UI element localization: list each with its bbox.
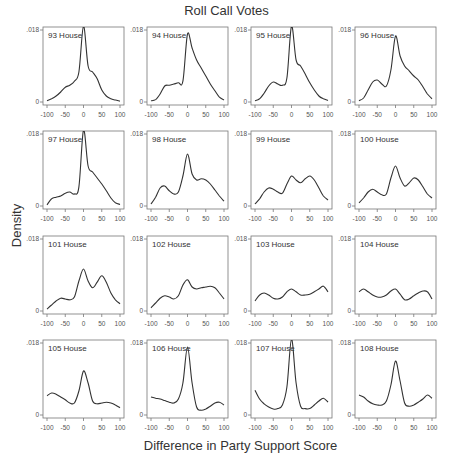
x-tick-label: 100 <box>427 111 438 118</box>
density-curve <box>255 176 328 204</box>
y-tick-label: 0 <box>347 202 351 209</box>
density-panel: 99 House0.018-100-50050100 <box>234 130 333 222</box>
x-tick-label: 100 <box>427 215 438 222</box>
y-tick-label: 0 <box>35 307 39 314</box>
x-tick-label: -50 <box>61 320 71 327</box>
x-tick-label: 50 <box>306 320 314 327</box>
x-tick-label: 0 <box>290 111 294 118</box>
x-tick-label: 50 <box>306 215 314 222</box>
density-panel: 108 House0.018-100-50050100 <box>338 339 437 431</box>
x-tick-label: -50 <box>165 320 175 327</box>
density-curve <box>359 166 432 203</box>
x-tick-label: 0 <box>394 215 398 222</box>
x-tick-label: 0 <box>290 215 294 222</box>
x-tick-label: -50 <box>269 320 279 327</box>
panel-title: 103 House <box>256 240 295 249</box>
x-tick-label: -50 <box>269 215 279 222</box>
density-panel: 107 House0.018-100-50050100 <box>234 339 333 431</box>
small-multiples-grid: 93 House0.018-100-5005010094 House0.018-… <box>0 0 453 465</box>
y-tick-label: 0 <box>35 98 39 105</box>
y-tick-label: .018 <box>130 130 143 137</box>
y-tick-label: .018 <box>338 339 351 346</box>
density-curve <box>151 33 224 101</box>
x-tick-label: 0 <box>186 424 190 431</box>
y-tick-label: 0 <box>139 202 143 209</box>
x-tick-label: 50 <box>306 424 314 431</box>
x-tick-label: 100 <box>427 424 438 431</box>
panel-title: 102 House <box>152 240 191 249</box>
x-tick-label: 50 <box>410 320 418 327</box>
x-tick-label: 50 <box>306 111 314 118</box>
x-tick-label: -50 <box>373 424 383 431</box>
x-tick-label: 50 <box>202 320 210 327</box>
x-tick-label: -50 <box>61 215 71 222</box>
x-tick-label: -50 <box>373 320 383 327</box>
x-tick-label: -100 <box>352 320 365 327</box>
y-tick-label: .018 <box>26 130 39 137</box>
x-tick-label: 100 <box>115 320 126 327</box>
x-tick-label: 0 <box>394 111 398 118</box>
x-tick-label: 0 <box>290 320 294 327</box>
y-tick-label: 0 <box>243 307 247 314</box>
x-tick-label: 0 <box>82 111 86 118</box>
x-tick-label: -50 <box>165 215 175 222</box>
density-curve <box>359 361 432 406</box>
x-tick-label: -100 <box>352 424 365 431</box>
y-tick-label: .018 <box>130 26 143 33</box>
x-tick-label: 50 <box>98 424 106 431</box>
x-tick-label: -50 <box>373 111 383 118</box>
y-tick-label: 0 <box>139 307 143 314</box>
panel-title: 95 House <box>256 31 291 40</box>
x-tick-label: -50 <box>61 424 71 431</box>
y-tick-label: 0 <box>347 307 351 314</box>
y-tick-label: 0 <box>347 98 351 105</box>
x-tick-label: -100 <box>40 111 53 118</box>
x-tick-label: 100 <box>323 111 334 118</box>
density-panel: 93 House0.018-100-50050100 <box>26 26 125 118</box>
density-panel: 96 House0.018-100-50050100 <box>338 26 437 118</box>
x-tick-label: -50 <box>165 424 175 431</box>
x-tick-label: 100 <box>219 111 230 118</box>
y-tick-label: 0 <box>139 98 143 105</box>
x-tick-label: -100 <box>248 320 261 327</box>
density-curve <box>47 371 120 408</box>
x-tick-label: 0 <box>290 424 294 431</box>
panel-title: 98 House <box>152 135 187 144</box>
y-tick-label: .018 <box>234 339 247 346</box>
density-panel: 102 House0.018-100-50050100 <box>130 235 229 327</box>
x-tick-label: 0 <box>186 215 190 222</box>
x-tick-label: 50 <box>410 424 418 431</box>
panel-title: 101 House <box>48 240 87 249</box>
x-tick-label: -100 <box>248 215 261 222</box>
density-curve <box>151 347 224 410</box>
y-tick-label: 0 <box>243 98 247 105</box>
y-tick-label: .018 <box>26 26 39 33</box>
x-tick-label: 50 <box>202 215 210 222</box>
x-tick-label: 100 <box>323 320 334 327</box>
x-tick-label: 50 <box>98 215 106 222</box>
x-tick-label: 50 <box>202 111 210 118</box>
x-tick-label: 0 <box>82 320 86 327</box>
panel-title: 93 House <box>48 31 83 40</box>
y-tick-label: .018 <box>26 339 39 346</box>
x-tick-label: 100 <box>219 424 230 431</box>
x-tick-label: 0 <box>82 424 86 431</box>
y-tick-label: .018 <box>26 235 39 242</box>
x-tick-label: -100 <box>144 320 157 327</box>
panel-title: 106 House <box>152 344 191 353</box>
x-tick-label: 0 <box>394 424 398 431</box>
density-curve <box>255 286 328 301</box>
y-tick-label: .018 <box>338 26 351 33</box>
x-tick-label: -50 <box>373 215 383 222</box>
x-tick-label: -100 <box>248 424 261 431</box>
x-tick-label: -100 <box>352 111 365 118</box>
x-tick-label: 100 <box>219 320 230 327</box>
x-tick-label: -50 <box>61 111 71 118</box>
density-curve <box>359 36 432 101</box>
x-tick-label: -100 <box>144 215 157 222</box>
x-tick-label: 50 <box>410 215 418 222</box>
y-tick-label: .018 <box>234 26 247 33</box>
y-tick-label: .018 <box>338 235 351 242</box>
x-tick-label: 0 <box>82 215 86 222</box>
x-tick-label: -100 <box>40 424 53 431</box>
